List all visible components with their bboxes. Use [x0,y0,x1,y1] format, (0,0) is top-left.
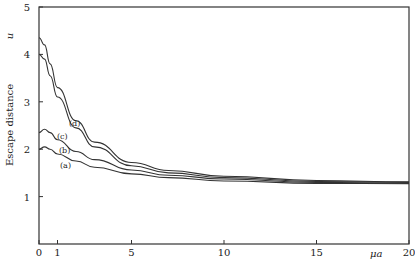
curve-labels: (a)(b)(c)(d) [57,119,80,170]
y-tick-label: 1 [24,192,30,203]
curve-label-a: (a) [60,161,71,170]
x-axis-ticks: 015101520 [36,240,415,258]
x-tick-label: 1 [54,247,60,258]
x-tick-label: 10 [218,247,231,258]
y-tick-label: 3 [24,97,30,108]
y-tick-label: 2 [24,144,30,155]
x-axis-symbol: μa [370,248,382,259]
curves [39,38,409,184]
x-tick-label: 20 [403,247,415,258]
curve-d [39,38,409,182]
curve-a [39,147,409,184]
curve-b [39,129,409,183]
x-tick-label: 0 [36,247,42,258]
curve-label-c: (c) [57,132,68,141]
y-tick-label: 4 [24,49,30,60]
curve-c [39,54,409,182]
escape-distance-chart: 12345 015101520 (a)(b)(c)(d) Escape dist… [0,0,415,259]
y-axis-symbol: u [4,33,15,39]
curve-label-d: (d) [69,119,80,128]
x-tick-label: 15 [310,247,323,258]
x-tick-label: 5 [128,247,134,258]
y-tick-label: 5 [24,2,30,13]
curve-label-b: (b) [59,146,70,155]
y-axis-ticks: 12345 [24,2,43,203]
y-axis-title: Escape distance [4,84,15,166]
plot-frame [39,7,409,244]
